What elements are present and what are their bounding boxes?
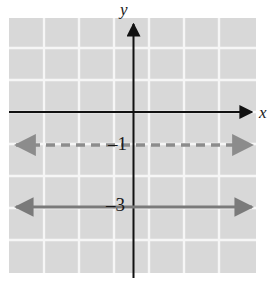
y-axis-label: y — [120, 1, 128, 18]
label-negative-three: –3 — [106, 195, 125, 214]
minus-sign-dashed: – — [108, 133, 118, 154]
coordinate-plane — [0, 0, 275, 292]
minus-sign-solid: – — [106, 194, 116, 215]
value-dashed: 1 — [118, 133, 128, 154]
x-axis-label: x — [259, 104, 267, 121]
graph-figure: y x –1 –3 — [0, 0, 275, 292]
label-negative-one: –1 — [108, 134, 127, 153]
value-solid: 3 — [116, 194, 126, 215]
